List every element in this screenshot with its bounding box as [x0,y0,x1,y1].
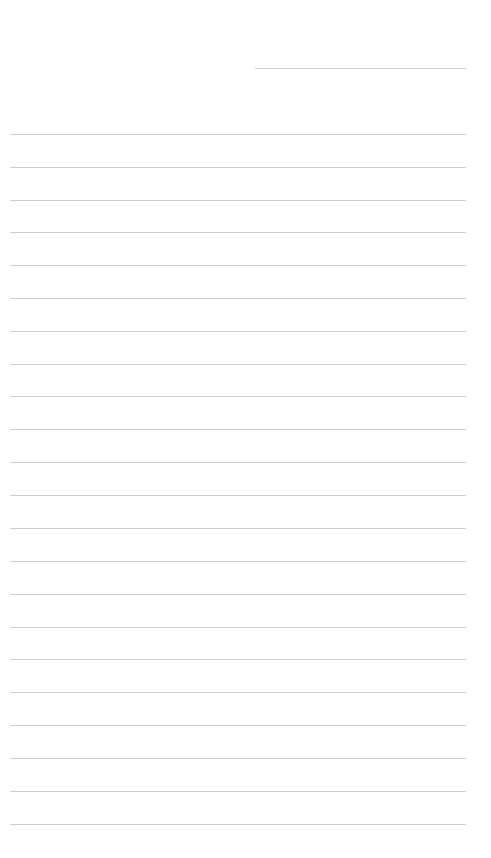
ruled-line [10,462,466,463]
header-date-line [255,68,466,69]
ruled-line [10,791,466,792]
ruled-line [10,298,466,299]
ruled-line [10,232,466,233]
ruled-paper-page [0,0,491,858]
ruled-line [10,692,466,693]
ruled-line [10,627,466,628]
ruled-line [10,528,466,529]
ruled-line [10,265,466,266]
ruled-line [10,495,466,496]
ruled-line [10,758,466,759]
ruled-line [10,331,466,332]
ruled-line [10,594,466,595]
ruled-line [10,364,466,365]
ruled-line [10,396,466,397]
ruled-line [10,167,466,168]
ruled-line [10,200,466,201]
ruled-line [10,561,466,562]
ruled-line [10,134,466,135]
ruled-line [10,824,466,825]
ruled-line [10,429,466,430]
ruled-line [10,659,466,660]
ruled-line [10,725,466,726]
